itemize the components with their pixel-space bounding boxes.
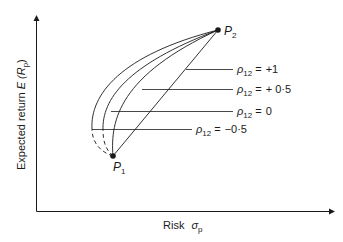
curve-rho-minus-0-5 xyxy=(92,30,218,129)
label-rho-minus-0-5: ρ12=−0·5 xyxy=(195,123,247,138)
curve-rho-minus-0-5-dashed xyxy=(92,129,113,156)
efficient-frontier-diagram: P1 P2 ρ12=+1 ρ12=+ 0·5 ρ12=0 ρ12=−0·5 Ex… xyxy=(0,0,343,242)
label-p2: P2 xyxy=(224,24,237,40)
curve-rho-0 xyxy=(103,30,218,130)
label-p1: P1 xyxy=(113,160,126,176)
axes xyxy=(37,20,331,212)
label-rho-plus-0-5: ρ12=+ 0·5 xyxy=(236,83,291,98)
x-axis-arrow-icon xyxy=(329,209,335,215)
leader-lines xyxy=(92,70,233,130)
y-axis-label: Expected return E(Rp) xyxy=(15,59,30,170)
curves xyxy=(92,30,218,156)
label-rho-plus-1: ρ12=+1 xyxy=(236,63,278,78)
x-axis-label: Riskσp xyxy=(163,219,203,234)
label-rho-0: ρ12=0 xyxy=(236,105,272,120)
point-p2-marker-icon xyxy=(215,27,221,33)
y-axis-arrow-icon xyxy=(34,15,40,21)
point-p1-marker-icon xyxy=(110,153,116,159)
